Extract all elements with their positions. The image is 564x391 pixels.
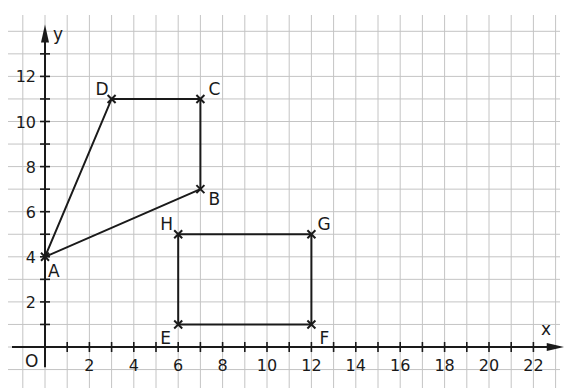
y-axis-label: y [53,24,63,44]
point-label-g: G [317,214,330,234]
point-label-h: H [160,214,173,234]
grid [8,15,560,388]
x-tick-label: 22 [523,356,543,375]
y-tick-label: 6 [26,203,36,222]
point-label-c: C [208,79,220,99]
x-axis-label: x [541,319,551,339]
origin-label: O [25,351,38,371]
y-tick-label: 2 [26,293,36,312]
y-tick-label: 10 [16,113,36,132]
x-tick-label: 20 [479,356,499,375]
x-tick-label: 14 [346,356,366,375]
point-label-a: A [48,261,60,281]
point-label-e: E [160,328,171,348]
y-tick-label: 4 [26,248,36,267]
x-tick-label: 12 [301,356,321,375]
x-tick-label: 10 [257,356,277,375]
x-tick-label: 16 [390,356,410,375]
y-tick-label: 8 [26,158,36,177]
point-label-b: B [208,189,220,209]
x-tick-label: 4 [129,356,139,375]
point-label-d: D [96,79,109,99]
y-axis-arrow-icon [41,25,49,43]
y-tick-label: 12 [16,67,36,86]
x-tick-label: 8 [218,356,228,375]
point-label-f: F [319,328,329,348]
coordinate-plane: 24681012141618202224681012OxyABCDEFGH [0,0,564,391]
x-tick-label: 18 [434,356,454,375]
x-tick-label: 6 [173,356,183,375]
x-tick-label: 2 [84,356,94,375]
